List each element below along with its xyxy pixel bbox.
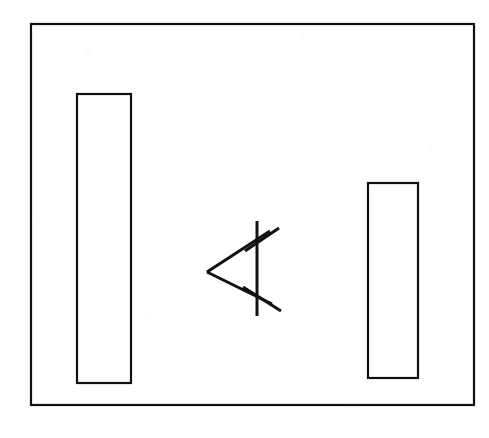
drawing-canvas: Line Drawing Outer frame Left vertical b… bbox=[0, 0, 489, 438]
center-arrow-symbol bbox=[207, 221, 281, 316]
chevron-upper-arm bbox=[207, 231, 270, 272]
right-vertical-bar bbox=[368, 183, 418, 378]
drawing-svg bbox=[0, 0, 489, 438]
diagonal-upper-right bbox=[245, 228, 279, 251]
diagonal-lower-right bbox=[243, 287, 281, 311]
outer-frame-rectangle bbox=[31, 24, 474, 405]
left-vertical-bar bbox=[77, 94, 131, 383]
